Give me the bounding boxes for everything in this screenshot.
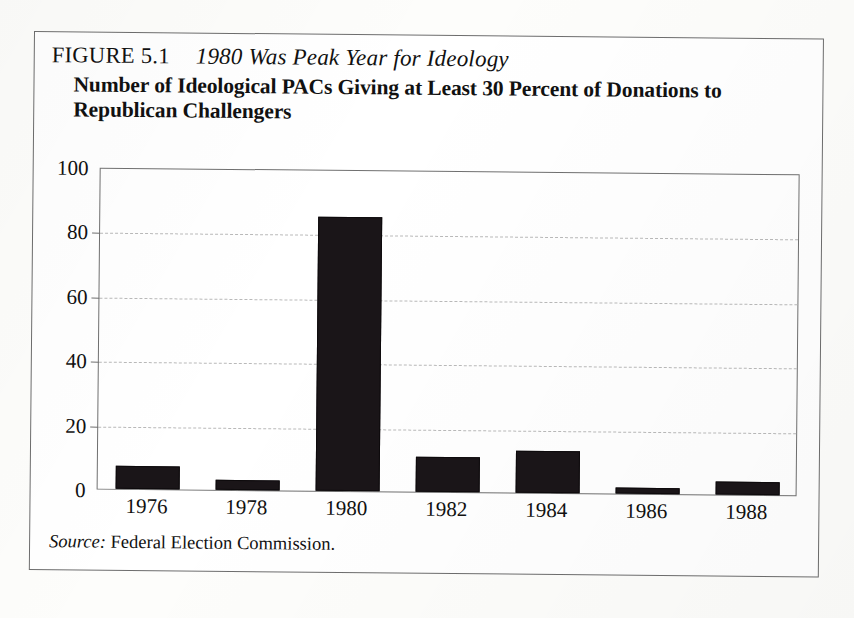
source-label: Source: [49, 531, 106, 552]
y-axis-tick [90, 426, 98, 427]
y-axis-tick [91, 297, 99, 298]
y-axis-tick [92, 233, 100, 234]
chart-subtitle: Number of Ideological PACs Giving at Lea… [73, 72, 773, 129]
gridline [99, 297, 797, 305]
y-axis-label: 80 [67, 222, 88, 243]
figure-header: FIGURE 5.11980 Was Peak Year for Ideolog… [51, 43, 812, 130]
x-axis-label: 1986 [596, 498, 696, 524]
x-axis-label: 1980 [296, 496, 396, 522]
bar [615, 487, 680, 494]
y-axis-label: 40 [66, 351, 87, 372]
x-axis-label: 1978 [196, 495, 296, 521]
y-axis-label: 60 [66, 287, 87, 308]
source-text: Federal Election Commission. [110, 532, 335, 554]
x-axis-label: 1984 [496, 497, 596, 523]
bar-series [101, 169, 799, 176]
y-axis-label: 20 [65, 415, 86, 436]
figure-content: FIGURE 5.11980 Was Peak Year for Ideolog… [29, 31, 824, 578]
gridlines: 020406080100 [101, 169, 799, 176]
scanned-page: FIGURE 5.11980 Was Peak Year for Ideolog… [0, 0, 854, 618]
figure-number: FIGURE 5.1 [52, 42, 170, 68]
y-axis-label: 100 [57, 158, 89, 179]
y-axis-tick [91, 362, 99, 363]
figure-title-line: FIGURE 5.11980 Was Peak Year for Ideolog… [52, 43, 812, 75]
source-note: Source: Federal Election Commission. [49, 531, 335, 555]
x-axis-label: 1982 [396, 497, 496, 523]
x-axis-label: 1976 [96, 494, 196, 520]
x-axis-labels: 1976197819801982198419861988 [96, 494, 796, 535]
gridline [100, 233, 798, 241]
figure-caption: 1980 Was Peak Year for Ideology [196, 44, 509, 72]
bar [215, 480, 280, 490]
gridline [99, 362, 797, 370]
gridline [98, 426, 796, 434]
bar [315, 217, 382, 491]
bar [515, 451, 580, 493]
bar [415, 456, 480, 492]
y-axis-label: 0 [75, 480, 86, 501]
x-axis-label: 1988 [696, 499, 796, 525]
plot-area: 020406080100 [97, 168, 800, 497]
bar [115, 466, 180, 489]
bar [715, 482, 780, 495]
